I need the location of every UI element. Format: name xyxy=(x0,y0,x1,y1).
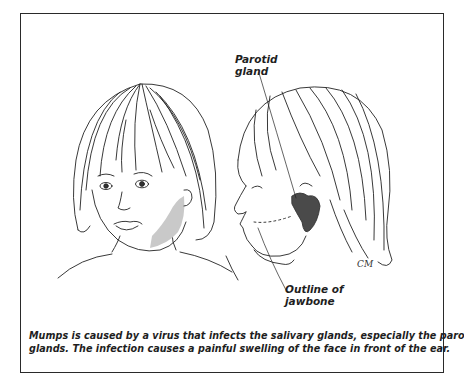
jawbone-label-line2: jawbone xyxy=(285,295,344,307)
swelling-shade xyxy=(150,196,184,248)
profile-view-child xyxy=(226,73,392,290)
figure-caption: Mumps is caused by a virus that infects … xyxy=(29,329,439,355)
parotid-leader-line xyxy=(259,73,296,198)
parotid-label-line1: Parotid xyxy=(235,53,278,65)
parotid-gland-label: Parotid gland xyxy=(235,53,278,77)
front-view-child xyxy=(58,84,232,278)
jawbone-leader-line xyxy=(258,228,286,290)
artist-signature: CM xyxy=(357,259,373,269)
parotid-label-line2: gland xyxy=(235,65,278,77)
jawbone-outline-label: Outline of jawbone xyxy=(285,283,344,307)
caption-line-1: Mumps is caused by a virus that infects … xyxy=(29,329,439,342)
parotid-gland-shape xyxy=(292,193,320,232)
jawbone-label-line1: Outline of xyxy=(285,283,344,295)
mumps-illustration xyxy=(0,0,464,384)
caption-line-2: glands. The infection causes a painful s… xyxy=(29,342,439,355)
